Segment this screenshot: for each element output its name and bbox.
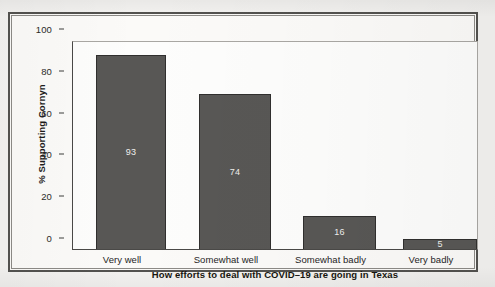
bar-value-label: 74 <box>200 167 270 177</box>
y-tick-label: 0 <box>26 233 52 244</box>
bars-layer: 9374165 <box>73 42 477 249</box>
bar: 74 <box>199 94 271 249</box>
y-tick-mark <box>59 112 64 113</box>
x-axis-title: How efforts to deal with COVID–19 are go… <box>72 269 478 280</box>
x-tick-label: Very well <box>67 254 177 265</box>
cut-off-caption-sliver <box>10 0 310 8</box>
bar-value-label: 5 <box>404 239 476 249</box>
x-tick-label: Very badly <box>376 254 486 265</box>
x-tick-label: Somewhat badly <box>276 254 386 265</box>
y-tick-mark <box>59 70 64 71</box>
y-tick-mark <box>59 196 64 197</box>
bar-value-label: 93 <box>97 147 165 157</box>
y-tick-mark <box>59 29 64 30</box>
y-tick-label: 100 <box>26 24 52 35</box>
bar: 93 <box>96 55 166 249</box>
plot-area: 9374165 <box>72 41 478 250</box>
y-tick-mark <box>59 238 64 239</box>
x-tick-label: Somewhat well <box>171 254 281 265</box>
bar-value-label: 16 <box>304 227 375 237</box>
bar: 16 <box>303 216 376 249</box>
bar: 5 <box>403 239 477 249</box>
figure-border-box: 100806040200 % Supporting Cornyn 9374165… <box>8 12 478 272</box>
y-axis-title-holder: % Supporting Cornyn <box>20 29 21 238</box>
y-axis-title: % Supporting Cornyn <box>36 64 47 204</box>
figure-page: 100806040200 % Supporting Cornyn 9374165… <box>0 0 495 287</box>
y-tick-mark <box>59 154 64 155</box>
